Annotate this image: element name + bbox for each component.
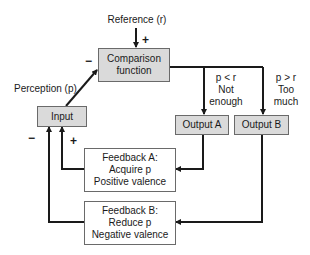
feedback-b-minus-sign: − <box>28 132 35 144</box>
output-a-label: Output A <box>183 119 222 131</box>
reference-plus-sign: + <box>142 34 149 46</box>
condition-a-label: p < r Not enough <box>208 72 244 108</box>
output-b-box: Output B <box>234 115 289 135</box>
feedback-a-line2: Acquire p <box>109 164 151 176</box>
feedback-b-line1: Feedback B: <box>102 205 158 217</box>
condition-b-line3: much <box>270 96 302 108</box>
feedback-a-plus-sign: + <box>70 135 77 147</box>
condition-a-line1: p < r <box>208 72 244 84</box>
feedback-b-box: Feedback B: Reduce p Negative valence <box>84 201 176 245</box>
condition-b-line2: Too <box>270 84 302 96</box>
feedback-a-box: Feedback A: Acquire p Positive valence <box>84 148 176 192</box>
comparison-line1: Comparison <box>107 53 161 65</box>
input-box: Input <box>37 106 87 127</box>
input-label: Input <box>51 111 73 123</box>
comparison-line2: function <box>116 65 151 77</box>
feedback-b-line3: Negative valence <box>92 229 169 241</box>
output-a-box: Output A <box>175 115 229 135</box>
perception-minus-sign: − <box>85 55 92 67</box>
perception-label: Perception (p) <box>14 83 77 95</box>
comparison-function-box: Comparison function <box>98 48 170 82</box>
reference-label: Reference (r) <box>102 14 172 26</box>
output-b-label: Output B <box>242 119 281 131</box>
feedback-a-line3: Positive valence <box>94 176 166 188</box>
feedback-a-line1: Feedback A: <box>102 152 158 164</box>
feedback-b-line2: Reduce p <box>109 217 152 229</box>
condition-b-label: p > r Too much <box>270 72 302 108</box>
condition-b-line1: p > r <box>270 72 302 84</box>
condition-a-line3: enough <box>208 96 244 108</box>
condition-a-line2: Not <box>208 84 244 96</box>
